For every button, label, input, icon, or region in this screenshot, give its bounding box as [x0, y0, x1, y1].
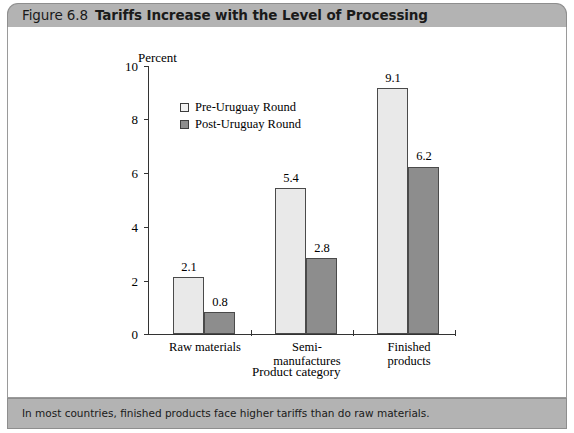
figure-caption-text: In most countries, finished products fac…: [22, 407, 430, 419]
figure-header-bar: Figure 6.8Tariffs Increase with the Leve…: [7, 3, 567, 27]
figure-number: Figure 6.8: [22, 7, 88, 23]
figure-caption-bar: In most countries, finished products fac…: [7, 398, 567, 429]
figure-header-text: Figure 6.8Tariffs Increase with the Leve…: [22, 7, 428, 23]
figure-container: Figure 6.8Tariffs Increase with the Leve…: [0, 0, 574, 433]
chart-panel: [7, 27, 567, 398]
figure-title: Tariffs Increase with the Level of Proce…: [95, 7, 428, 23]
